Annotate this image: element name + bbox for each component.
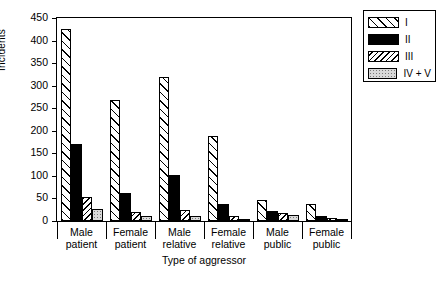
x-tick-label-line: Male bbox=[155, 226, 204, 238]
chart-container: Incidents 050100150200250300350400450 Ma… bbox=[0, 0, 441, 281]
bar-groups bbox=[57, 18, 351, 221]
x-axis-label: Type of aggressor bbox=[57, 254, 351, 266]
x-tick-label: Malepatient bbox=[57, 226, 106, 250]
x-tick-label-line: Male bbox=[253, 226, 302, 238]
x-tick-label-line: Male bbox=[57, 226, 106, 238]
bar bbox=[267, 211, 278, 221]
bar-group bbox=[253, 18, 302, 221]
y-axis-ticks: 050100150200250300350400450 bbox=[0, 0, 56, 222]
y-tick-label: 250 bbox=[8, 102, 48, 113]
bar bbox=[239, 219, 250, 221]
legend-label: IV + V bbox=[403, 68, 431, 79]
bar-group bbox=[155, 18, 204, 221]
bar-group bbox=[204, 18, 253, 221]
y-tick-label: 150 bbox=[8, 147, 48, 158]
bar bbox=[120, 193, 131, 221]
y-tick-label: 300 bbox=[8, 80, 48, 91]
bar bbox=[159, 77, 170, 221]
bar bbox=[82, 197, 93, 221]
y-tick-label: 50 bbox=[8, 192, 48, 203]
bar bbox=[208, 136, 219, 221]
legend-label: III bbox=[405, 51, 413, 62]
bar bbox=[327, 218, 338, 221]
x-tick-label: Femalepatient bbox=[106, 226, 155, 250]
bar bbox=[71, 144, 82, 221]
legend-item: II bbox=[368, 32, 431, 47]
bar bbox=[288, 215, 299, 221]
bar bbox=[180, 210, 191, 221]
bar bbox=[316, 216, 327, 221]
x-tick-label: Femalerelative bbox=[204, 226, 253, 250]
bar-group bbox=[106, 18, 155, 221]
legend-label: II bbox=[405, 34, 411, 45]
bar bbox=[141, 216, 152, 221]
x-tick-label-line: Female bbox=[204, 226, 253, 238]
y-tick-label: 450 bbox=[8, 12, 48, 23]
legend-label: I bbox=[405, 17, 408, 28]
bar bbox=[61, 29, 72, 221]
legend-swatch bbox=[368, 34, 399, 45]
bar bbox=[257, 200, 268, 221]
x-tick-label-line: Female bbox=[302, 226, 351, 238]
x-tick-label-line: public bbox=[302, 238, 351, 250]
x-tick-label-line: patient bbox=[106, 238, 155, 250]
y-tick-label: 100 bbox=[8, 170, 48, 181]
x-tick-label-line: relative bbox=[155, 238, 204, 250]
x-tick-label-line: public bbox=[253, 238, 302, 250]
bar bbox=[169, 175, 180, 221]
y-tick-label: 400 bbox=[8, 35, 48, 46]
legend-item: I bbox=[368, 15, 431, 30]
bar bbox=[131, 212, 142, 221]
bar bbox=[190, 216, 201, 221]
x-tick-label-line: Female bbox=[106, 226, 155, 238]
bar bbox=[229, 216, 240, 221]
y-tick-label: 200 bbox=[8, 125, 48, 136]
x-tick-label-line: patient bbox=[57, 238, 106, 250]
legend-item: III bbox=[368, 49, 431, 64]
legend-swatch bbox=[368, 68, 397, 79]
bar-group bbox=[302, 18, 351, 221]
y-tick-label: 0 bbox=[8, 215, 48, 226]
bar bbox=[92, 209, 103, 221]
bar bbox=[218, 204, 229, 221]
x-tick-label: Malepublic bbox=[253, 226, 302, 250]
x-tick-label-line: relative bbox=[204, 238, 253, 250]
x-tick-label: Malerelative bbox=[155, 226, 204, 250]
legend-swatch bbox=[368, 51, 399, 62]
x-tick-label: Femalepublic bbox=[302, 226, 351, 250]
bar bbox=[110, 100, 121, 221]
category-separator bbox=[351, 221, 352, 239]
bar bbox=[337, 219, 348, 221]
bar bbox=[306, 204, 317, 221]
y-tick-label: 350 bbox=[8, 57, 48, 68]
bar-group bbox=[57, 18, 106, 221]
chart-legend: IIIIIIIV + V bbox=[363, 10, 436, 82]
legend-swatch bbox=[368, 17, 399, 28]
bar bbox=[278, 213, 289, 221]
legend-item: IV + V bbox=[368, 66, 431, 81]
